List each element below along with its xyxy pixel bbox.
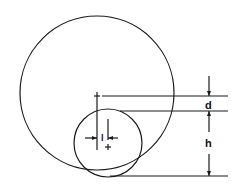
- label-l: l: [101, 133, 104, 143]
- d-arrowhead: [207, 91, 211, 96]
- label-d: d: [205, 99, 212, 111]
- circle-dimension-diagram: d h l: [0, 0, 238, 186]
- h-arrowhead-top: [207, 111, 211, 116]
- l-arrowhead-right: [108, 136, 113, 140]
- l-arrowhead-left: [92, 136, 97, 140]
- label-h: h: [205, 137, 212, 149]
- h-arrowhead-bottom: [207, 171, 211, 176]
